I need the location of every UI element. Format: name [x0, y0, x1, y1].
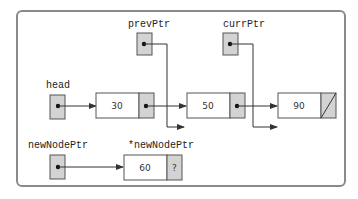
node-60-value: 60 [139, 163, 151, 173]
label-newNodePtr: newNodePtr [28, 140, 88, 151]
node-30-value: 30 [111, 101, 123, 111]
label-head: head [46, 80, 70, 91]
node-90-value: 90 [293, 101, 305, 111]
label-prevPtr: prevPtr [128, 19, 170, 30]
label-newNodeDeref: *newNodePtr [128, 140, 194, 151]
node-50-value: 50 [202, 101, 214, 111]
node-60-next-unknown: ? [172, 163, 177, 173]
linked-list-diagram: prevPtr currPtr head newNodePtr *newNode… [0, 0, 358, 199]
label-currPtr: currPtr [223, 19, 265, 30]
